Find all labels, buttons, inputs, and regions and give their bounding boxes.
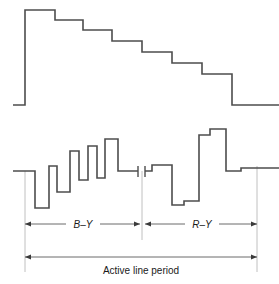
dimension-ry: R–Y [145,216,257,232]
luminance-staircase-path [13,10,279,105]
colour-difference-by-waveform [13,139,138,208]
dimension-active-line-period: Active line period [25,257,257,276]
segment-break-marks [138,166,145,177]
dimension-active-line-period-label: Active line period [103,265,179,276]
waveform-canvas: B–Y R–Y Active line period [0,0,279,284]
ry-waveform-path [145,129,279,205]
colour-difference-ry-waveform [145,129,279,205]
dimension-by: B–Y [25,216,140,232]
dimension-ry-label: R–Y [192,219,213,230]
dimension-by-label: B–Y [74,219,94,230]
by-waveform-path [13,139,138,208]
waveform-diagram: B–Y R–Y Active line period [0,0,279,284]
luminance-staircase-waveform [13,10,279,105]
guide-lines [25,166,257,272]
